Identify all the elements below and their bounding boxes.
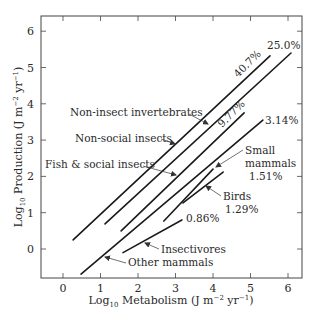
label-0-86-pct: 0.86% <box>186 212 219 224</box>
arrow-insectivores <box>145 243 159 249</box>
y-tick-label: 3 <box>27 134 34 147</box>
x-tick-label: 0 <box>60 282 67 295</box>
arrow-small-mammals <box>216 150 243 167</box>
label-small-mammals-pct: 1.51% <box>249 170 282 182</box>
y-tick-label: 2 <box>27 170 34 183</box>
y-tick-label: 5 <box>27 62 34 75</box>
label-25-0-pct: 25.0% <box>267 39 300 51</box>
x-tick-label: 6 <box>285 282 292 295</box>
y-tick-label: 4 <box>27 98 34 111</box>
label-birds-pct: 1.29% <box>225 203 258 215</box>
arrow-other-mammals <box>105 257 126 263</box>
y-tick-label: 0 <box>27 243 34 256</box>
x-axis-title: Log10 Metabolism (J m−2 yr−1) <box>89 294 254 309</box>
label-insectivores: Insectivores <box>161 243 226 255</box>
label-other-mammals: Other mammals <box>128 256 213 268</box>
arrow-birds <box>206 186 221 196</box>
y-axis-title: Log10 Production (J m−2 yr−1) <box>12 67 27 228</box>
label-small-mammals-line1: Small <box>245 144 276 156</box>
y-tick-label: 6 <box>27 25 34 38</box>
label-3-14-pct: 3.14% <box>265 114 298 126</box>
label-birds: Birds <box>223 190 251 202</box>
label-40-7-pct: 40.7% <box>231 47 263 79</box>
label-fish-social-insects: Fish & social insects <box>45 158 155 170</box>
production-vs-metabolism-chart: 0123456 0123456 40.7% 25.0% 9.77% 3.14% … <box>0 0 311 316</box>
label-small-mammals-line2: mammals <box>245 157 296 169</box>
series-line-birds <box>183 172 223 203</box>
y-tick-label: 1 <box>27 207 34 220</box>
label-non-insect-invertebrates: Non-insect invertebrates <box>70 106 203 118</box>
label-non-social-insects: Non-social insects <box>75 132 172 144</box>
